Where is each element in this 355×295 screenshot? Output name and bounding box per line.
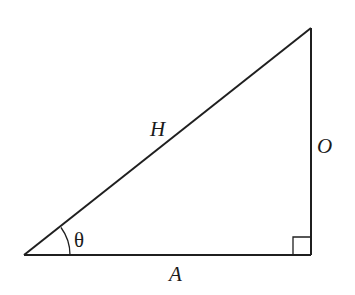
adjacent-label: A [167, 262, 182, 286]
angle-arc [61, 228, 70, 256]
opposite-label: O [317, 134, 332, 158]
angle-label: θ [74, 228, 84, 252]
triangle-svg: H O A θ [0, 0, 355, 295]
right-angle-marker [293, 237, 311, 255]
triangle-diagram: H O A θ [0, 0, 355, 295]
hypotenuse-label: H [149, 117, 167, 141]
hypotenuse-line [24, 28, 311, 255]
